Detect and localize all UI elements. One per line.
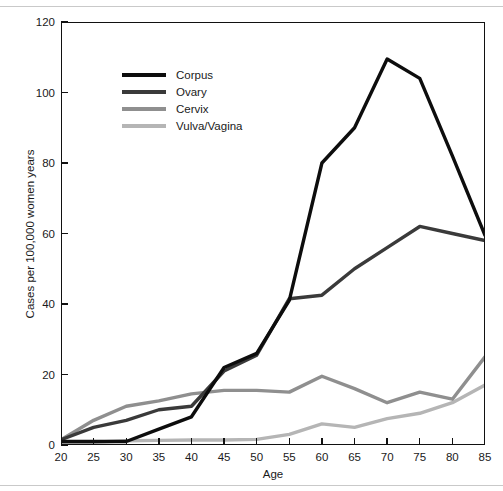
x-axis-tick-mark — [126, 438, 127, 445]
legend-item-corpus[interactable]: Corpus — [122, 66, 302, 83]
x-axis-tick-mark — [452, 438, 453, 445]
x-axis-tick-mark — [93, 438, 94, 445]
x-axis-tick-label: 65 — [348, 451, 361, 463]
x-axis-tick-label: 25 — [87, 451, 100, 463]
x-axis-tick-label: 35 — [152, 451, 165, 463]
legend-line-swatch-icon — [122, 90, 166, 94]
y-axis-tick-label: 100 — [27, 87, 55, 99]
y-axis-tick-label: 0 — [27, 439, 55, 451]
x-axis-tick-label: 40 — [185, 451, 198, 463]
legend-item-label: Ovary — [176, 86, 207, 98]
legend-item-ovary[interactable]: Ovary — [122, 83, 302, 100]
legend-line-swatch-icon — [122, 107, 166, 111]
x-axis-tick-mark — [289, 438, 290, 445]
y-axis-tick-label: 80 — [27, 157, 55, 169]
y-axis-tick-label: 60 — [27, 228, 55, 240]
x-axis-tick-label: 80 — [446, 451, 459, 463]
x-axis-tick-mark — [256, 438, 257, 445]
legend-item-label: Cervix — [176, 103, 209, 115]
figure-bottom-divider — [0, 485, 503, 486]
y-axis-tick-label: 40 — [27, 298, 55, 310]
y-axis-tick-mark — [61, 233, 68, 234]
x-axis-tick-mark — [321, 438, 322, 445]
legend-item-label: Corpus — [176, 69, 213, 81]
x-axis-tick-label: 50 — [250, 451, 263, 463]
chart-legend: CorpusOvaryCervixVulva/Vagina — [122, 66, 302, 134]
x-axis-tick-label: 75 — [413, 451, 426, 463]
figure-top-divider — [0, 6, 503, 7]
legend-item-label: Vulva/Vagina — [176, 120, 243, 132]
x-axis-label: Age — [263, 468, 283, 480]
x-axis-tick-label: 20 — [55, 451, 68, 463]
y-axis-tick-mark — [61, 92, 68, 93]
y-axis-tick-mark — [61, 444, 68, 445]
y-axis-tick-mark — [61, 303, 68, 304]
y-axis-tick-label: 20 — [27, 369, 55, 381]
x-axis-tick-label: 60 — [316, 451, 329, 463]
figure-container: Cases per 100,000 women years CorpusOvar… — [0, 0, 503, 491]
x-axis-tick-mark — [419, 438, 420, 445]
x-axis-tick-mark — [386, 438, 387, 445]
x-axis-tick-mark — [354, 438, 355, 445]
y-axis-tick-label: 120 — [27, 16, 55, 28]
x-axis-tick-label: 30 — [120, 451, 133, 463]
x-axis-tick-label: 70 — [381, 451, 394, 463]
legend-line-swatch-icon — [122, 124, 166, 128]
x-axis-tick-label: 85 — [479, 451, 492, 463]
x-axis-tick-mark — [191, 438, 192, 445]
y-axis-tick-mark — [61, 162, 68, 163]
legend-line-swatch-icon — [122, 73, 166, 77]
x-axis-tick-label: 45 — [218, 451, 231, 463]
legend-item-vulva-vagina[interactable]: Vulva/Vagina — [122, 117, 302, 134]
x-axis-tick-mark — [223, 438, 224, 445]
y-axis-tick-mark — [61, 21, 68, 22]
y-axis-tick-mark — [61, 374, 68, 375]
legend-item-cervix[interactable]: Cervix — [122, 100, 302, 117]
x-axis-tick-mark — [158, 438, 159, 445]
x-axis-tick-label: 55 — [283, 451, 296, 463]
